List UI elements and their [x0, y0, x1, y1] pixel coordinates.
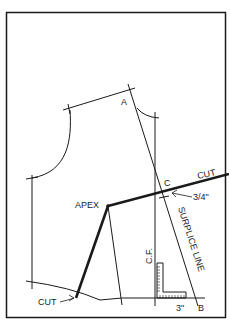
- armhole-curve: [32, 110, 70, 178]
- label-surplice-line: SURPLICE LINE: [176, 206, 206, 273]
- label-point-a: A: [121, 97, 127, 107]
- frame-border: [7, 13, 226, 318]
- dart-leg: [108, 206, 122, 305]
- measure-arrow-c: [172, 190, 192, 197]
- label-center-front: C.F.: [144, 248, 154, 264]
- label-point-c: C: [164, 178, 171, 188]
- label-apex: APEX: [75, 200, 99, 210]
- label-cut-bottom: CUT: [38, 297, 57, 307]
- cut-arrow-bottom: [60, 295, 74, 302]
- square-ruler: [157, 263, 186, 298]
- label-measure-b: 3": [176, 303, 184, 313]
- label-point-b: B: [198, 303, 204, 313]
- apex-point: [106, 204, 110, 208]
- pattern-diagram: A C CUT 3/4" APEX C.F. SURPLICE LINE CUT…: [0, 0, 229, 324]
- cut-line-lower: [76, 206, 108, 298]
- label-measure-c: 3/4": [193, 192, 209, 202]
- neckline-curve: [137, 108, 159, 118]
